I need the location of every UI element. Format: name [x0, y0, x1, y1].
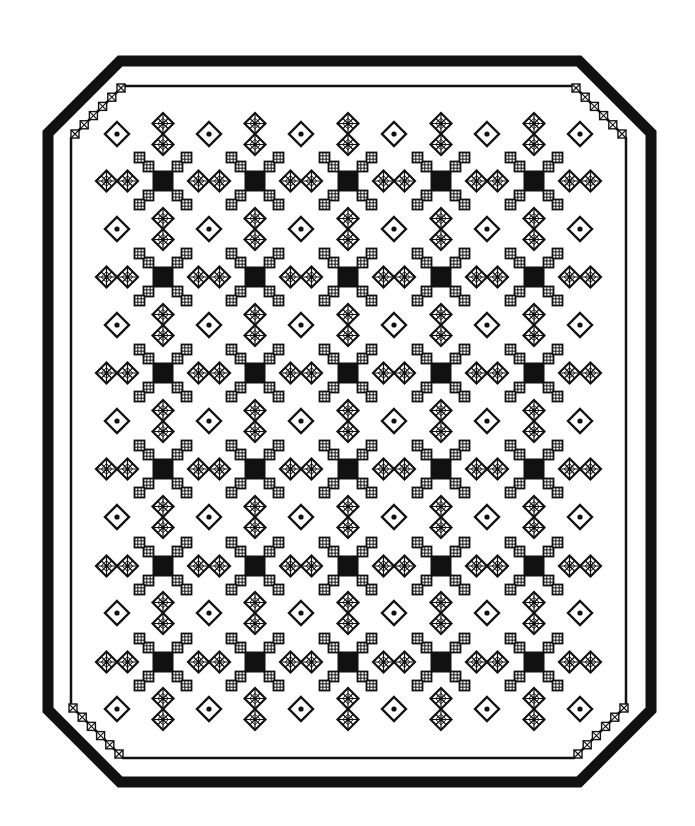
grid-check-square	[320, 634, 330, 644]
vertical-star-pair	[524, 304, 545, 346]
star-diamond	[431, 688, 452, 709]
star-diamond	[338, 496, 359, 517]
star-diamond	[188, 652, 209, 673]
horizontal-star-pair	[373, 556, 415, 577]
grid-check-square	[227, 249, 237, 259]
stepped-cross	[135, 249, 192, 306]
grid-check-square	[182, 345, 192, 355]
center-black-square	[245, 459, 266, 480]
dot-diamond	[382, 505, 406, 529]
grid-check-square	[367, 345, 377, 355]
grid-check-square	[460, 392, 470, 402]
grid-check-square	[320, 441, 330, 451]
grid-check-square	[553, 153, 563, 163]
grid-check-square	[182, 296, 192, 306]
dot-diamond	[105, 122, 129, 146]
dot-diamond	[382, 409, 406, 433]
center-black-square	[153, 267, 174, 288]
x-check-square	[69, 704, 77, 712]
dot-diamond	[197, 601, 221, 625]
center-black-square	[153, 459, 174, 480]
star-diamond	[524, 421, 545, 442]
star-diamond	[153, 592, 174, 613]
grid-check-square	[135, 538, 145, 548]
center-black-square	[153, 171, 174, 192]
horizontal-star-pair	[559, 556, 601, 577]
star-diamond	[338, 688, 359, 709]
star-diamond	[431, 229, 452, 250]
grid-check-square	[135, 634, 145, 644]
horizontal-star-pair	[373, 459, 415, 480]
dot-diamond	[105, 697, 129, 721]
dot-diamond	[568, 601, 592, 625]
star-diamond	[338, 592, 359, 613]
dot-diamond	[289, 697, 313, 721]
grid-check-square	[367, 200, 377, 210]
grid-check-square	[182, 488, 192, 498]
stepped-cross	[506, 441, 563, 498]
horizontal-star-pair	[466, 652, 508, 673]
x-check-square	[97, 732, 105, 740]
x-check-square	[80, 121, 88, 129]
grid-check-square	[553, 200, 563, 210]
dot-diamond	[105, 601, 129, 625]
grid-check-square	[135, 441, 145, 451]
grid-check-square	[413, 585, 423, 595]
star-diamond	[524, 134, 545, 155]
vertical-star-pair	[431, 304, 452, 346]
star-diamond	[301, 267, 322, 288]
star-diamond	[153, 208, 174, 229]
x-check-square	[108, 93, 116, 101]
star-diamond	[96, 556, 117, 577]
quilt-pattern-illustration	[0, 0, 695, 826]
stepped-cross	[227, 634, 284, 691]
grid-check-square	[227, 585, 237, 595]
star-diamond	[580, 556, 601, 577]
x-check-square	[572, 84, 580, 92]
star-diamond	[524, 688, 545, 709]
vertical-star-pair	[338, 592, 359, 634]
x-check-square	[115, 750, 123, 758]
center-black-square	[431, 652, 452, 673]
horizontal-star-pair	[559, 267, 601, 288]
vertical-star-pair	[431, 113, 452, 155]
center-black-square	[338, 267, 359, 288]
grid-check-square	[367, 681, 377, 691]
horizontal-star-pair	[559, 459, 601, 480]
star-diamond	[96, 363, 117, 384]
star-diamond	[580, 652, 601, 673]
grid-check-square	[135, 345, 145, 355]
grid-check-square	[553, 392, 563, 402]
star-diamond	[559, 556, 580, 577]
star-diamond	[431, 613, 452, 634]
star-diamond	[153, 229, 174, 250]
star-diamond	[280, 459, 301, 480]
star-diamond	[153, 400, 174, 421]
dot-diamond	[105, 409, 129, 433]
center-black-square	[245, 171, 266, 192]
grid-check-square	[413, 249, 423, 259]
center-black-square	[524, 363, 545, 384]
star-diamond	[580, 363, 601, 384]
quilt-pattern-canvas	[0, 0, 695, 826]
grid-check-square	[227, 634, 237, 644]
stepped-cross	[227, 441, 284, 498]
vertical-star-pair	[245, 208, 266, 250]
grid-check-square	[227, 153, 237, 163]
center-black-square	[524, 652, 545, 673]
grid-check-square	[553, 441, 563, 451]
star-diamond	[96, 267, 117, 288]
star-diamond	[466, 171, 487, 192]
dot-diamond	[475, 409, 499, 433]
grid-check-square	[274, 585, 284, 595]
grid-check-square	[460, 345, 470, 355]
dot-diamond	[289, 505, 313, 529]
x-check-square	[106, 741, 114, 749]
vertical-star-pair	[153, 113, 174, 155]
star-diamond	[338, 325, 359, 346]
dot-diamond	[568, 217, 592, 241]
dot-diamond	[382, 601, 406, 625]
stepped-cross	[506, 249, 563, 306]
horizontal-star-pair	[559, 171, 601, 192]
x-check-square	[611, 713, 619, 721]
